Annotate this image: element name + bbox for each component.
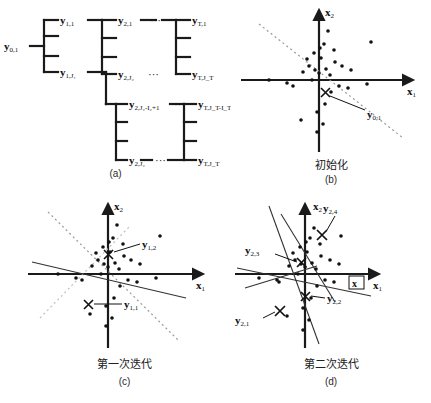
- tree-node-T-1: yT,1: [192, 14, 207, 28]
- panel-d-title-cn: 第二次迭代: [231, 355, 431, 371]
- tree-node-2-1: y2,1: [118, 14, 133, 28]
- tree-ellipsis-lower: ···: [174, 98, 185, 110]
- tree-svg: y0,1 y1,1 y1,J₁ y2,1 y2,J₂ y2,J₂-I₂+1 y2…: [0, 0, 231, 178]
- tree-ellipsis-mid: ···: [148, 68, 159, 80]
- x-axis-label: x1: [407, 85, 417, 99]
- leader-line-y12: [114, 244, 140, 252]
- x-axis-label: x1: [196, 279, 206, 293]
- leader-line-y21: [263, 312, 275, 318]
- leader-line-y22: [311, 296, 325, 298]
- tree-node-T-JT-a: yT,J_T: [192, 68, 214, 82]
- panel-d-scatter: y2,4 y2,3 y2,2 y2,1 x x2: [231, 192, 431, 403]
- tree-node-1-J1: y1,J₁: [60, 66, 76, 80]
- label-y23: y2,3: [245, 244, 260, 258]
- panel-c-scatter: y1,2 y1,1 x2 x1 第一次迭代 (c): [18, 192, 231, 403]
- label-y12: y1,2: [142, 238, 157, 252]
- boundary-line-2: [281, 214, 335, 302]
- panel-b-title-cn: 初始化: [231, 156, 431, 172]
- tree-node-2-mid: y2,J₂-I₂+1: [129, 98, 160, 112]
- tree-node-1-1: y1,1: [60, 14, 75, 28]
- panel-b-scatter: y0,1 x2 x1 初始化 (b): [231, 0, 431, 192]
- centroid-marker-y21: [275, 306, 285, 316]
- label-y21: y2,1: [235, 314, 250, 328]
- leader-line-y01: [330, 96, 365, 110]
- panel-b-caption: (b): [231, 174, 431, 185]
- leader-line-y23: [275, 254, 297, 262]
- tree-node-T-JT-b: yT,J_T: [198, 154, 220, 168]
- label-y24: y2,4: [323, 202, 338, 216]
- y-axis-label: x2: [313, 200, 323, 214]
- boundary-line-4: [245, 266, 317, 288]
- tree-node-2-J2-b: y2,J₂: [129, 154, 145, 168]
- panel-c-title-cn: 第一次迭代: [18, 355, 231, 371]
- label-y22: y2,2: [327, 292, 342, 306]
- panel-a-caption: (a): [0, 168, 231, 179]
- label-y11: y1,1: [124, 298, 139, 312]
- x-axis-label: x1: [373, 279, 383, 293]
- y-axis-label: x2: [114, 200, 124, 214]
- tree-node-root: y0,1: [4, 40, 19, 54]
- y-axis-label: x2: [325, 6, 335, 20]
- panel-c-caption: (c): [18, 376, 231, 387]
- centroid-marker-y24: [317, 230, 327, 240]
- boundary-line-1: [48, 212, 178, 340]
- tree-node-T-mid: yT,J_T-I_T+1: [198, 98, 231, 112]
- panel-b-svg: y0,1 x2 x1: [231, 0, 431, 160]
- legend-marker-x: x: [352, 278, 357, 289]
- centroid-marker-y01: [321, 88, 330, 97]
- panel-d-svg: y2,4 y2,3 y2,2 y2,1 x x2: [231, 192, 431, 362]
- tree-ellipsis-bottom: ···: [155, 154, 166, 166]
- tree-ellipsis-top: ···: [150, 14, 161, 26]
- label-y01: y0,1: [367, 108, 382, 122]
- panel-d-caption: (d): [231, 376, 431, 387]
- panel-c-svg: y1,2 y1,1 x2 x1: [18, 192, 231, 362]
- panel-a-tree-diagram: y0,1 y1,1 y1,J₁ y2,1 y2,J₂ y2,J₂-I₂+1 y2…: [0, 0, 231, 192]
- centroid-marker-y11: [84, 300, 93, 309]
- tree-node-2-J2-a: y2,J₂: [118, 68, 134, 82]
- leader-line-y24: [327, 216, 335, 230]
